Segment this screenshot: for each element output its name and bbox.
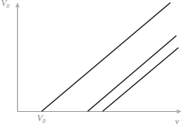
x-intercept-label: V0 — [37, 114, 46, 123]
x-axis-label: v — [175, 117, 179, 126]
chart-container: V0 v V0 — [0, 0, 189, 131]
x-axis-arrowhead — [177, 109, 182, 113]
data-series-group — [42, 3, 178, 111]
plot-area — [0, 0, 189, 131]
y-axis-arrowhead — [15, 3, 19, 8]
y-axis — [15, 3, 19, 113]
data-line-3 — [103, 48, 178, 111]
data-line-2 — [88, 36, 176, 111]
y-axis-label: V0 — [1, 0, 10, 8]
